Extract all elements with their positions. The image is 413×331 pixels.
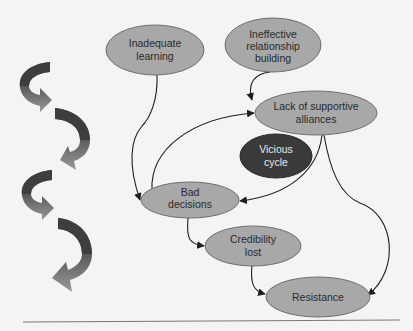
node-vicious-cycle: Vicious cycle (240, 134, 312, 178)
bottom-divider (23, 320, 400, 322)
node-label-line: relationship (246, 40, 300, 52)
node-credibility-lost: Credibility lost (205, 226, 301, 266)
swirl-arrow-3-icon (22, 170, 54, 220)
vicious-cycle-diagram: Inadequate learning Ineffective relation… (0, 0, 413, 331)
edge-ineffective-to-lack (251, 72, 270, 100)
node-label-line: Credibility (230, 233, 277, 245)
edge-bad-to-lack (152, 113, 254, 190)
node-label-line: Inadequate (129, 37, 182, 49)
node-inadequate-learning: Inadequate learning (106, 25, 204, 75)
node-label-line: Vicious (259, 143, 293, 155)
swirl-arrow-1-icon (20, 62, 52, 112)
swirl-arrow-4-icon (52, 218, 92, 292)
node-label-line: Bad (181, 186, 200, 198)
node-label-line: decisions (168, 198, 212, 210)
node-label-line: Resistance (292, 291, 344, 303)
edge-credibility-to-resistance (252, 265, 265, 294)
node-label-line: learning (136, 50, 174, 62)
node-label-line: cycle (264, 156, 288, 168)
node-label-line: Ineffective (249, 28, 297, 40)
edge-bad-to-credibility (188, 218, 204, 246)
node-label-line: alliances (296, 113, 337, 125)
node-label-line: building (255, 52, 291, 64)
node-bad-decisions: Bad decisions (141, 182, 239, 218)
node-lack-of-supportive-alliances: Lack of supportive alliances (255, 91, 377, 135)
node-ineffective-relationship-building: Ineffective relationship building (225, 18, 321, 72)
swirl-arrow-2-icon (55, 108, 90, 170)
node-label-line: Lack of supportive (273, 100, 358, 112)
edge-inadequate-to-bad (132, 75, 157, 200)
node-resistance: Resistance (266, 277, 370, 317)
node-label-line: lost (245, 246, 261, 258)
spiral-arrows-icon (20, 62, 92, 292)
edge-lack-to-resistance (324, 135, 389, 295)
